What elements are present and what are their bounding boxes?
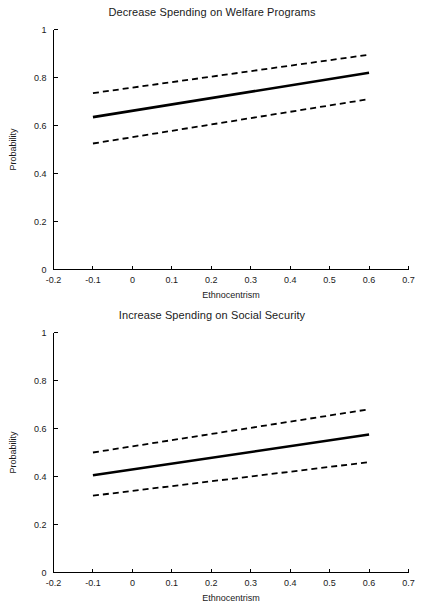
chart-panel-welfare: Decrease Spending on Welfare Programs -0…: [0, 0, 424, 310]
x-axis-title: Ethnocentrism: [202, 290, 260, 300]
ci-upper-welfare: [93, 55, 369, 93]
x-tick-label: 0.7: [402, 275, 415, 285]
x-tick-label: 0.6: [363, 578, 376, 588]
y-tick-label: 1: [41, 25, 46, 35]
x-tick-label: 0.2: [205, 275, 218, 285]
x-tick-label: 0.3: [244, 275, 257, 285]
y-tick-label: 0.2: [34, 217, 47, 227]
x-tick-label: 0.3: [244, 578, 257, 588]
y-tick-label: 0.4: [34, 169, 47, 179]
y-tick-label: 1: [41, 328, 46, 338]
chart-panel-social-security: Increase Spending on Social Security -0.…: [0, 303, 424, 613]
y-tick-label: 0: [41, 568, 46, 578]
y-tick-label: 0.4: [34, 472, 47, 482]
ci-lower-social-security: [93, 462, 369, 496]
y-tick-label: 0.8: [34, 376, 47, 386]
x-tick-label: 0: [130, 275, 135, 285]
x-tick-label: 0.7: [402, 578, 415, 588]
figure-page: Decrease Spending on Welfare Programs -0…: [0, 0, 424, 613]
x-tick-label: 0.1: [166, 578, 179, 588]
ci-lower-welfare: [93, 99, 369, 143]
y-tick-label: 0.6: [34, 121, 47, 131]
x-tick-label: 0.5: [323, 275, 336, 285]
fit-line-social-security: [93, 435, 369, 476]
ci-upper-social-security: [93, 409, 369, 452]
x-tick-label: -0.2: [46, 275, 62, 285]
x-tick-label: 0.2: [205, 578, 218, 588]
x-axis-title: Ethnocentrism: [202, 593, 260, 603]
x-tick-label: 0.4: [284, 578, 297, 588]
x-tick-label: -0.2: [46, 578, 62, 588]
y-tick-label: 0.6: [34, 424, 47, 434]
y-axis-title: Probability: [8, 431, 18, 474]
y-tick-label: 0.8: [34, 73, 47, 83]
x-tick-label: 0.6: [363, 275, 376, 285]
y-tick-label: 0: [41, 265, 46, 275]
fit-line-welfare: [93, 73, 369, 117]
plot-area-social-security: -0.2-0.100.10.20.30.40.50.60.700.20.40.6…: [0, 303, 424, 613]
y-tick-label: 0.2: [34, 520, 47, 530]
x-tick-label: 0: [130, 578, 135, 588]
y-axis-title: Probability: [8, 128, 18, 171]
x-tick-label: 0.5: [323, 578, 336, 588]
x-tick-label: -0.1: [85, 578, 101, 588]
x-tick-label: 0.1: [166, 275, 179, 285]
plot-area-welfare: -0.2-0.100.10.20.30.40.50.60.700.20.40.6…: [0, 0, 424, 310]
x-tick-label: 0.4: [284, 275, 297, 285]
x-tick-label: -0.1: [85, 275, 101, 285]
